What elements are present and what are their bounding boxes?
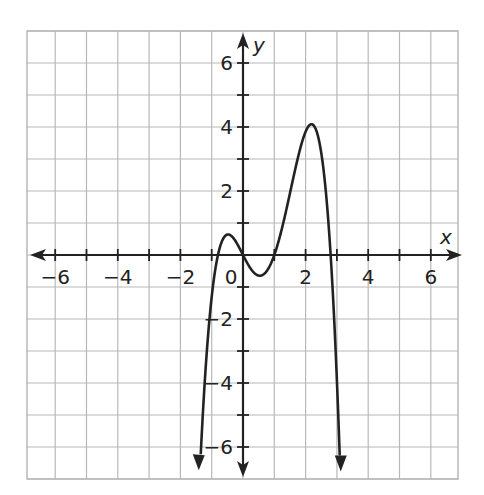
function-curve bbox=[193, 124, 347, 471]
polynomial-graph: −6−4−20246−6−4−2246 x y bbox=[0, 0, 484, 495]
x-tick-label: 0 bbox=[225, 265, 238, 289]
y-axis-label: y bbox=[252, 33, 266, 57]
x-tick-label: −2 bbox=[166, 265, 195, 289]
x-tick-label: 4 bbox=[362, 265, 375, 289]
x-tick-label: 2 bbox=[299, 265, 312, 289]
x-axis-label: x bbox=[439, 225, 452, 249]
y-tick-label: 2 bbox=[220, 179, 233, 203]
x-tick-label: 6 bbox=[424, 265, 437, 289]
x-tick-label: −4 bbox=[103, 265, 132, 289]
y-tick-label: −4 bbox=[204, 371, 233, 395]
y-tick-label: 6 bbox=[220, 51, 233, 75]
axes bbox=[30, 33, 462, 477]
y-tick-label: 4 bbox=[220, 115, 233, 139]
x-tick-label: −6 bbox=[40, 265, 69, 289]
y-tick-label: −6 bbox=[204, 435, 233, 459]
